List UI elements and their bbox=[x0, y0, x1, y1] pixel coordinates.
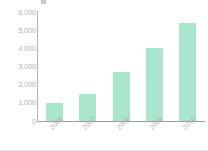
bar-2009 bbox=[146, 48, 163, 121]
bars-layer bbox=[38, 12, 204, 121]
chart-title bbox=[44, 0, 204, 4]
figure-bottom-edge bbox=[0, 150, 208, 151]
y-axis-tick-label: 6.000 bbox=[2, 9, 36, 16]
y-axis-tick-label: 5.000 bbox=[2, 27, 36, 34]
y-axis-tick-label: 4.000 bbox=[2, 45, 36, 52]
y-axis-tick-labels: 6.0005.0004.0003.0002.0001.0000 bbox=[0, 0, 36, 151]
bar-chart-figure: 6.0005.0004.0003.0002.0001.0000 20062007… bbox=[0, 0, 208, 151]
y-axis-tick-label: 3.000 bbox=[2, 63, 36, 70]
bar-2008 bbox=[113, 72, 130, 121]
y-axis-tick-label: 0 bbox=[2, 118, 36, 125]
y-axis-tick-label: 1.000 bbox=[2, 99, 36, 106]
bar-2010 bbox=[179, 23, 196, 121]
y-axis-tick-label: 2.000 bbox=[2, 81, 36, 88]
x-axis-tick-labels: 20062007200820092010 bbox=[38, 122, 204, 151]
